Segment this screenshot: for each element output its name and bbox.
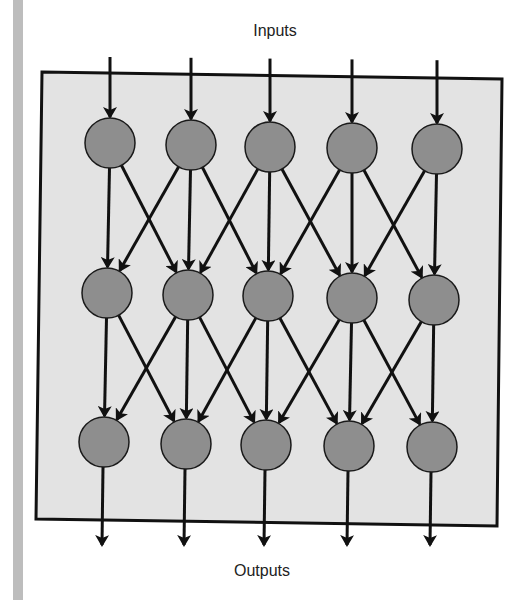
node-layer2-3 xyxy=(243,271,293,321)
vertical-connection xyxy=(268,172,269,270)
neural-network-diagram: Inputs Outputs xyxy=(0,0,529,600)
node-layer1-5 xyxy=(412,124,462,174)
node-layer1-3 xyxy=(245,122,295,172)
node-layer2-1 xyxy=(82,268,132,318)
output-arrow xyxy=(184,469,185,545)
outputs-label: Outputs xyxy=(234,562,290,579)
output-arrow xyxy=(347,471,348,545)
inputs-label: Inputs xyxy=(253,22,297,39)
vertical-connection xyxy=(186,320,187,418)
node-layer1-4 xyxy=(327,123,377,173)
node-layer3-3 xyxy=(241,420,291,470)
node-layer2-2 xyxy=(163,270,213,320)
vertical-connection xyxy=(105,318,107,416)
node-layer3-4 xyxy=(324,421,374,471)
node-layer2-5 xyxy=(409,275,459,325)
output-arrow xyxy=(430,472,431,545)
node-layer3-5 xyxy=(407,422,457,472)
node-layer1-1 xyxy=(85,118,135,168)
node-layer2-4 xyxy=(327,273,377,323)
node-layer1-2 xyxy=(166,120,216,170)
output-arrow xyxy=(102,467,103,545)
vertical-connection xyxy=(432,325,433,421)
vertical-connection xyxy=(189,170,191,269)
output-arrow xyxy=(264,470,265,545)
node-layer3-1 xyxy=(79,417,129,467)
node-layer3-2 xyxy=(161,419,211,469)
vertical-connection xyxy=(266,321,267,419)
vertical-connection xyxy=(435,174,437,274)
vertical-connection xyxy=(350,323,352,420)
vertical-connection xyxy=(108,168,110,267)
